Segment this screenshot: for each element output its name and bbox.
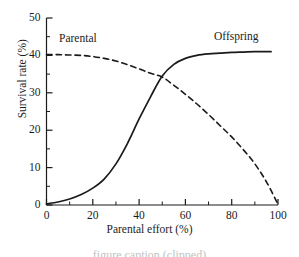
x-tick-label: 60 (169, 210, 201, 222)
y-tick-label: 10 (11, 162, 41, 174)
x-tick-label: 100 (262, 210, 294, 222)
y-tick-label: 0 (11, 199, 41, 211)
x-tick-label: 20 (77, 210, 109, 222)
figure-caption-clipped: figure caption (clipped) (0, 248, 299, 257)
series-curve-parental (47, 55, 279, 205)
axes-group (47, 18, 279, 205)
x-tick-label: 80 (216, 210, 248, 222)
x-axis-title: Parental effort (%) (0, 224, 299, 236)
x-tick-label: 0 (31, 210, 63, 222)
series-group (47, 52, 279, 205)
y-axis-title: Survival rate (%) (17, 9, 29, 149)
curve-label-parental: Parental (59, 33, 97, 45)
series-curve-offspring (47, 52, 272, 204)
x-tick-label: 40 (123, 210, 155, 222)
curve-label-offspring: Offspring (214, 31, 259, 43)
chart-figure: 01020304050020406080100 Parental effort … (0, 0, 299, 257)
